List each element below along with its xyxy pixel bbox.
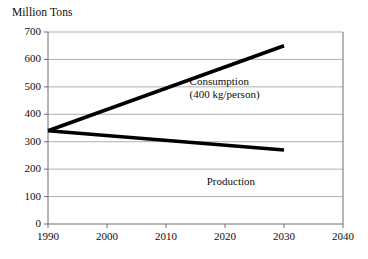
consumption-annotation-line2: (400 kg/person): [190, 88, 260, 101]
consumption-annotation-line1: Consumption: [190, 75, 249, 87]
x-tick-label: 2040: [321, 231, 365, 242]
y-tick-label: 100: [7, 191, 41, 202]
axis-ticks: [44, 32, 343, 228]
consumption-annotation: Consumption (400 kg/person): [190, 75, 260, 101]
x-tick-label: 2010: [144, 231, 188, 242]
chart-container: Million Tons 0100200300400500600700 1990…: [0, 0, 368, 259]
x-tick-label: 2030: [262, 231, 306, 242]
y-tick-label: 700: [7, 26, 41, 37]
x-tick-label: 1990: [26, 231, 70, 242]
y-tick-label: 0: [7, 218, 41, 229]
x-tick-label: 2020: [203, 231, 247, 242]
x-tick-label: 2000: [85, 231, 129, 242]
chart-plot-area: [0, 0, 368, 259]
y-tick-label: 500: [7, 81, 41, 92]
y-tick-label: 200: [7, 163, 41, 174]
axis-lines: [48, 32, 343, 224]
y-tick-label: 600: [7, 53, 41, 64]
y-tick-label: 300: [7, 136, 41, 147]
y-tick-label: 400: [7, 108, 41, 119]
production-annotation: Production: [207, 175, 255, 188]
series-line-production: [48, 131, 284, 150]
production-annotation-line1: Production: [207, 175, 255, 187]
